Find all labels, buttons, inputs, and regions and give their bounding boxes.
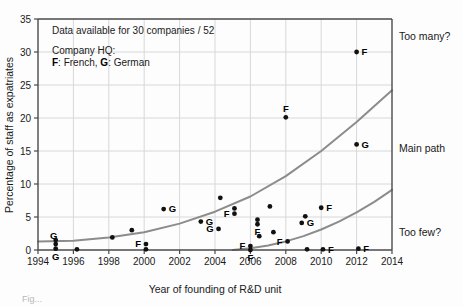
x-tick-label: 2002	[168, 256, 191, 267]
zone-label-too-many: Too many?	[399, 30, 451, 42]
data-availability-note: Data available for 30 companies / 52	[52, 25, 215, 36]
data-point	[53, 238, 58, 243]
x-axis-title: Year of founding of R&D unit	[149, 283, 282, 295]
y-tick-label: 0	[25, 245, 31, 256]
data-point-label: F	[363, 243, 369, 254]
data-point	[305, 247, 310, 252]
data-point-label: G	[52, 251, 59, 262]
data-point	[232, 206, 237, 211]
x-tick-label: 2008	[275, 256, 298, 267]
data-point: F	[283, 103, 289, 119]
data-point	[144, 247, 149, 252]
zone-label-too-few: Too few?	[399, 226, 441, 238]
scatter-chart: 1994199619982000200220042006200820102012…	[0, 0, 463, 307]
y-tick-label: 25	[20, 80, 32, 91]
data-point-label: G	[169, 203, 176, 214]
figure-container: 1994199619982000200220042006200820102012…	[0, 0, 463, 307]
legend-g-text: : German	[108, 57, 150, 68]
data-point	[255, 217, 260, 222]
x-tick-label: 2000	[133, 256, 156, 267]
y-tick-label: 35	[20, 14, 32, 25]
x-tick-label: 2004	[204, 256, 227, 267]
x-tick-label: 2012	[345, 256, 368, 267]
data-point: G	[52, 246, 59, 261]
data-point: G	[299, 217, 314, 228]
data-point-label: G	[307, 217, 314, 228]
data-point-label: F	[326, 202, 332, 213]
x-tick-label: 1994	[27, 256, 50, 267]
data-point-label: F	[277, 236, 283, 247]
data-point-label: G	[362, 139, 369, 150]
data-point: G	[206, 223, 221, 234]
y-tick-label: 20	[20, 113, 32, 124]
y-tick-label: 15	[20, 146, 32, 157]
data-point-label: G	[206, 223, 213, 234]
y-tick-label: 10	[20, 179, 32, 190]
data-point-label: F	[328, 244, 334, 255]
data-point	[267, 204, 272, 209]
data-point: F	[356, 243, 369, 254]
y-axis-title: Percentage of staff as expatriates	[3, 57, 15, 213]
y-tick-label: 30	[20, 47, 32, 58]
x-tick-label: 2014	[381, 256, 404, 267]
data-point-label: F	[247, 252, 253, 263]
data-point	[129, 228, 134, 233]
legend-title: Company HQ:	[52, 45, 115, 56]
data-point-label: F	[283, 103, 289, 114]
data-point: F	[321, 244, 334, 255]
data-point: G	[161, 203, 176, 214]
data-point-label: F	[224, 208, 230, 219]
data-point	[271, 230, 276, 235]
legend-f-text: : French,	[58, 57, 100, 68]
x-tick-label: 1998	[98, 256, 121, 267]
data-point-label: F	[362, 46, 368, 57]
zone-label-main-path: Main path	[399, 142, 445, 154]
figure-caption: Fig...	[22, 294, 42, 304]
legend-hq-keys: F: French, G: German	[52, 57, 150, 68]
y-tick-label: 5	[25, 212, 31, 223]
x-tick-label: 1996	[62, 256, 85, 267]
data-point	[303, 214, 308, 219]
data-point-label: F	[240, 240, 246, 251]
data-point	[257, 234, 262, 239]
data-point	[218, 195, 223, 200]
data-point-label: F	[135, 238, 141, 249]
x-tick-label: 2010	[310, 256, 333, 267]
data-point	[110, 235, 115, 240]
data-point: F	[247, 248, 253, 263]
data-point	[75, 247, 80, 252]
